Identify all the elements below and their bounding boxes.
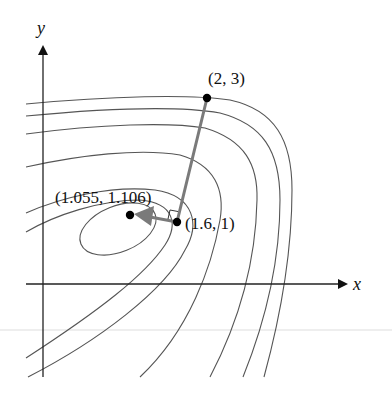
contour-5 bbox=[26, 189, 193, 377]
x-axis-label: x bbox=[352, 274, 361, 294]
arrow-head-icon bbox=[134, 206, 154, 226]
point-1.6-1 bbox=[173, 218, 181, 226]
point-2-3 bbox=[203, 94, 211, 102]
point-1.055-1.106 bbox=[126, 211, 134, 219]
descent-step-1 bbox=[177, 98, 207, 222]
contour-diagram: y x (2, 3) (1.6, 1) (1.055, 1.106) bbox=[0, 0, 392, 394]
contour-1 bbox=[26, 97, 292, 377]
label-point-2-3: (2, 3) bbox=[208, 69, 245, 88]
contour-lines bbox=[26, 97, 292, 377]
label-point-1.055-1.106: (1.055, 1.106) bbox=[55, 188, 151, 207]
label-point-1.6-1: (1.6, 1) bbox=[185, 214, 235, 233]
contour-3 bbox=[26, 125, 257, 377]
right-angle-marker bbox=[168, 210, 178, 219]
y-axis-label: y bbox=[35, 18, 45, 38]
contour-4 bbox=[26, 152, 221, 377]
